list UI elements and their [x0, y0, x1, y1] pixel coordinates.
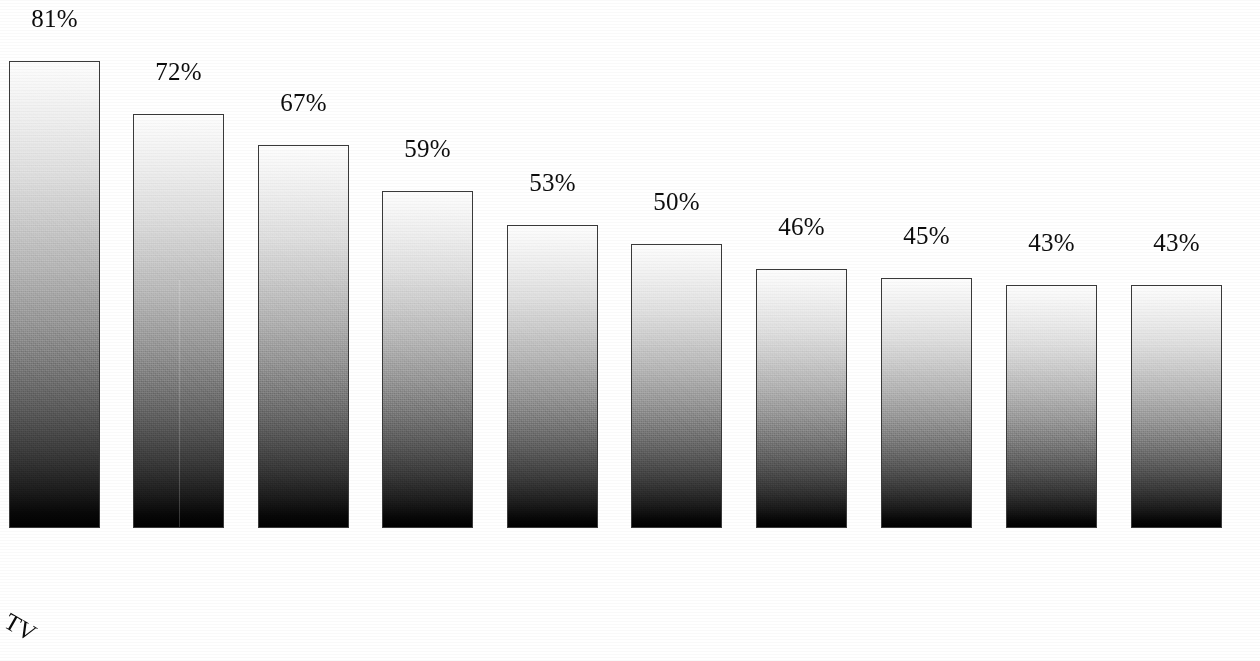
bar-value-label: 45% [881, 223, 972, 249]
bar-group: 72%Objects [133, 114, 224, 528]
plot-area: 81%TV72%Objects67%Music59%Toys53%Collect… [0, 0, 1260, 661]
bar-texture-overlay [508, 226, 597, 527]
bar-texture-overlay [1007, 286, 1096, 527]
bar-texture-overlay [10, 62, 99, 527]
bar-rect [1131, 285, 1222, 528]
bar-group: 53%Collections [507, 225, 598, 528]
bar-group: 45%Transportation [881, 278, 972, 528]
bar-value-label: 67% [258, 90, 349, 116]
bar-value-label: 43% [1006, 230, 1097, 256]
bar-rect [9, 61, 100, 528]
category-axis-label: TV [0, 608, 41, 647]
bar-value-label: 59% [382, 136, 473, 162]
bar-group: 59%Toys [382, 191, 473, 528]
bar-texture-overlay [1132, 286, 1221, 527]
bar-texture-overlay [757, 270, 846, 527]
bar-rect [1006, 285, 1097, 528]
bar-value-label: 81% [9, 6, 100, 32]
bar-rect [881, 278, 972, 528]
bar-rect [133, 114, 224, 528]
bar-seam-artifact [179, 280, 180, 527]
bar-group: 81%TV [9, 61, 100, 528]
bar-rect [756, 269, 847, 528]
bar-value-label: 53% [507, 170, 598, 196]
bar-texture-overlay [882, 279, 971, 527]
bar-value-label: 72% [133, 59, 224, 85]
bar-rect [631, 244, 722, 528]
bar-rect [507, 225, 598, 528]
bar-texture-overlay [383, 192, 472, 527]
bar-group: 46%Construction [756, 269, 847, 528]
bar-group: 43%Art [1006, 285, 1097, 528]
bar-rect [382, 191, 473, 528]
bar-texture-overlay [632, 245, 721, 527]
bar-chart: 81%TV72%Objects67%Music59%Toys53%Collect… [0, 0, 1260, 661]
bar-rect [258, 145, 349, 528]
bar-texture-overlay [259, 146, 348, 527]
bar-texture-overlay [134, 115, 223, 527]
bar-group: 67%Music [258, 145, 349, 528]
bar-value-label: 46% [756, 214, 847, 240]
bar-group: 43%Machines [1131, 285, 1222, 528]
bar-value-label: 43% [1131, 230, 1222, 256]
bar-group: 50%Animals [631, 244, 722, 528]
bar-value-label: 50% [631, 189, 722, 215]
